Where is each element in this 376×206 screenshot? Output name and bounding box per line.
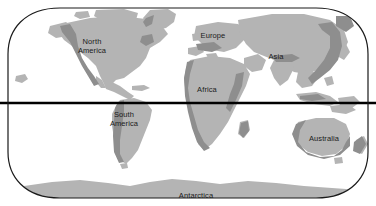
land-british-isles: [192, 33, 201, 41]
world-map-figure: North America South America Europe Afric…: [0, 0, 376, 206]
land-tasmania: [334, 157, 343, 164]
world-map-graphic: [0, 0, 376, 206]
